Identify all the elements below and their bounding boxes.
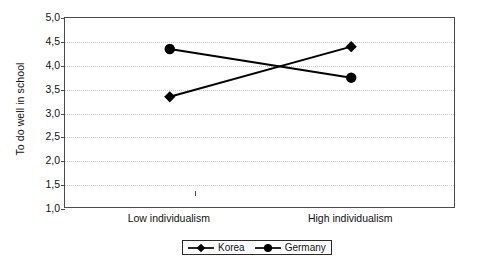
legend-label: Germany bbox=[285, 242, 326, 253]
y-tick-label: 5,0 bbox=[31, 11, 60, 23]
legend-marker-circle-icon bbox=[254, 242, 282, 254]
y-tick-label: 4,5 bbox=[31, 35, 60, 47]
y-tick-label: 3,0 bbox=[31, 107, 60, 119]
series-layer bbox=[65, 18, 456, 209]
y-tick-label: 1,5 bbox=[31, 178, 60, 190]
data-point bbox=[164, 91, 175, 102]
y-tick-mark bbox=[61, 209, 65, 210]
series-korea bbox=[164, 41, 357, 102]
data-point bbox=[165, 44, 175, 54]
y-tick-label: 2,5 bbox=[31, 130, 60, 142]
series-germany bbox=[165, 44, 357, 83]
x-category-label: High individualism bbox=[265, 212, 435, 224]
y-tick-label: 3,5 bbox=[31, 83, 60, 95]
y-tick-label: 4,0 bbox=[31, 59, 60, 71]
legend-item-korea[interactable]: Korea bbox=[187, 242, 245, 254]
legend-label: Korea bbox=[218, 242, 245, 253]
y-tick-label: 1,0 bbox=[31, 202, 60, 214]
y-tick-label: 2,0 bbox=[31, 154, 60, 166]
line-chart: To do well in school 5,04,54,03,53,02,52… bbox=[0, 0, 478, 271]
legend-marker-diamond-icon bbox=[187, 242, 215, 254]
y-axis-title: To do well in school bbox=[14, 14, 28, 204]
legend: KoreaGermany bbox=[182, 240, 332, 255]
data-point bbox=[346, 72, 356, 82]
data-point bbox=[346, 41, 357, 52]
y-axis-tick-labels: 5,04,54,03,53,02,52,01,51,0 bbox=[31, 11, 60, 209]
x-axis-mid-tick bbox=[195, 191, 196, 196]
x-category-label: Low individualism bbox=[84, 212, 254, 224]
x-axis-category-labels: Low individualismHigh individualism bbox=[64, 212, 455, 228]
legend-item-germany[interactable]: Germany bbox=[254, 242, 326, 254]
plot-area bbox=[64, 17, 455, 208]
